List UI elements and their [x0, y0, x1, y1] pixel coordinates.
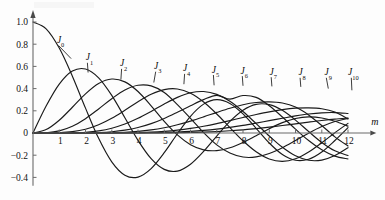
x-tick-label: 1 [58, 136, 63, 146]
x-tick-label: 12 [344, 136, 354, 146]
curve-label-order: 1 [90, 59, 93, 66]
curve-label-j9: J9 [325, 67, 332, 80]
curve-label-order: 0 [61, 41, 64, 48]
x-tick-label: 6 [189, 136, 194, 146]
y-axis-arrowhead [30, 10, 35, 18]
leader-line-j7 [271, 77, 272, 86]
curve-j5 [33, 91, 348, 160]
x-axis-arrowhead [370, 130, 376, 135]
curve-label-order: 7 [274, 73, 278, 80]
y-tick-label: 0 [23, 128, 28, 138]
x-tick-label: 7 [215, 136, 220, 146]
curve-label-order: 8 [303, 74, 306, 81]
curve-j6 [33, 95, 348, 159]
bessel-function-figure: 1.00.80.60.40.20−0.2−0.4 123456789101112… [0, 0, 385, 200]
curve-label-order: 2 [124, 65, 127, 72]
x-tick-label: 5 [163, 136, 168, 146]
curve-label-j8: J8 [298, 67, 305, 80]
curve-label-order: 9 [329, 74, 332, 81]
x-tick-label: 10 [292, 136, 302, 146]
y-tick-label: 0.8 [16, 40, 28, 50]
x-tick-label: 3 [110, 136, 115, 146]
x-tick-label: 8 [242, 136, 247, 146]
leader-line-j3 [154, 72, 156, 83]
y-tick-label: 0.2 [16, 106, 28, 116]
y-tick-label: −0.4 [11, 173, 28, 183]
curve-label-order: 5 [216, 71, 219, 78]
leader-line-j5 [213, 75, 214, 85]
y-tick-label: 0.4 [16, 84, 28, 94]
x-tick-label: 4 [137, 136, 142, 146]
x-tick-label: 9 [268, 136, 273, 146]
curve-label-j4: J4 [183, 63, 191, 76]
leader-line-j1 [87, 63, 88, 73]
curve-label-order: 4 [187, 70, 191, 77]
x-tick-label: 2 [84, 136, 89, 146]
x-axis-title: m [371, 116, 378, 127]
curve-label-j3: J3 [154, 61, 161, 74]
x-tick-label: 11 [318, 136, 327, 146]
y-axis-tick-labels: 1.00.80.60.40.20−0.2−0.4 [11, 17, 28, 182]
leader-line-j8 [300, 78, 301, 87]
y-tick-label: −0.2 [11, 151, 28, 161]
leader-line-j2 [121, 69, 122, 80]
x-axis-title-group: m [371, 116, 378, 127]
y-tick-label: 1.0 [16, 17, 28, 27]
curve-label-j2: J2 [120, 58, 127, 71]
curve-label-j6: J6 [241, 66, 248, 79]
curve-label-order: 6 [245, 72, 248, 79]
curve-label-j1: J1 [86, 52, 93, 65]
curve-label-j7: J7 [269, 67, 277, 80]
curve-label-j5: J5 [212, 65, 219, 78]
bessel-plot-svg: 1.00.80.60.40.20−0.2−0.4 123456789101112… [0, 0, 385, 200]
curve-label-order: 3 [158, 67, 161, 74]
y-tick-label: 0.6 [16, 62, 28, 72]
leader-line-j4 [184, 74, 185, 84]
leader-line-j6 [242, 76, 243, 86]
curve-label-order: 10 [352, 74, 358, 81]
curve-j8 [33, 108, 348, 133]
curve-label-j10: J10 [348, 67, 359, 80]
curves-group [33, 22, 348, 178]
